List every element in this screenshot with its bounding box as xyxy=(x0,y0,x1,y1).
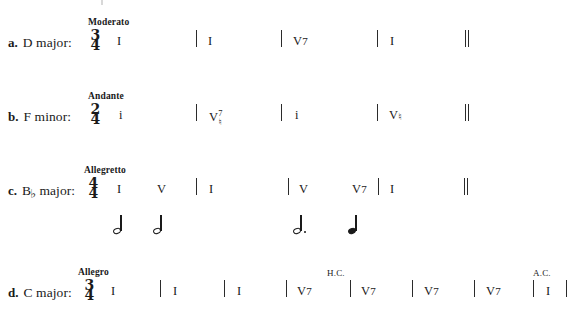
chord-numeral: V xyxy=(297,284,306,298)
chord-numeral: i xyxy=(295,108,299,122)
exercise-label-a: a.D major: xyxy=(8,36,72,50)
chord-numeral: I xyxy=(208,34,212,48)
cadence-label-hc: H.C. xyxy=(327,269,345,278)
chord-symbol[interactable]: V xyxy=(299,183,308,196)
time-signature-denominator: 4 xyxy=(82,290,96,300)
chord-symbol[interactable]: i xyxy=(119,109,123,122)
chord-symbol[interactable]: i xyxy=(295,109,299,122)
time-signature-a: 3 4 xyxy=(88,30,102,50)
chord-numeral: I xyxy=(237,284,241,298)
chord-numeral: V xyxy=(157,182,166,196)
half-note-icon xyxy=(113,215,129,237)
chord-symbol[interactable]: V7 xyxy=(293,35,308,48)
final-double-barline xyxy=(464,178,468,195)
barline xyxy=(566,280,567,297)
chord-seventh: 7 xyxy=(495,285,501,297)
barline xyxy=(196,30,197,47)
cadence-label-ac: A.C. xyxy=(533,269,551,278)
chord-numeral: V xyxy=(209,110,218,124)
time-signature-b: 2 4 xyxy=(88,104,102,124)
natural-sign-icon: ♮ xyxy=(218,117,222,127)
chord-numeral: V xyxy=(299,182,308,196)
final-double-barline xyxy=(465,30,469,47)
chord-symbol[interactable]: I xyxy=(390,183,394,196)
time-signature-denominator: 4 xyxy=(88,40,102,50)
chord-seventh: 7 xyxy=(370,285,376,297)
chord-numeral: I xyxy=(173,284,177,298)
time-signature-c: 4 4 xyxy=(86,178,100,198)
chord-numeral: I xyxy=(111,284,115,298)
quarter-note-icon xyxy=(348,215,364,237)
chord-numeral: V xyxy=(361,284,370,298)
chord-numeral: i xyxy=(119,108,123,122)
exercise-label-c: c.B♭ major: xyxy=(8,184,75,200)
chord-symbol[interactable]: I xyxy=(111,285,115,298)
barline xyxy=(160,280,161,297)
barline xyxy=(474,280,475,297)
chord-seventh: 7 xyxy=(361,183,367,195)
chord-symbol[interactable]: I xyxy=(209,183,213,196)
chord-symbol[interactable]: V7♮ xyxy=(209,109,222,127)
chord-numeral: I xyxy=(209,182,213,196)
time-signature-d: 3 4 xyxy=(82,280,96,300)
chord-seventh: 7 xyxy=(302,35,308,47)
key-name-c: B♭ major: xyxy=(22,183,75,198)
chord-numeral: I xyxy=(390,182,394,196)
key-name-d: C major: xyxy=(23,285,71,300)
barline xyxy=(286,280,287,297)
chord-symbol[interactable]: V7 xyxy=(424,285,439,298)
chord-numeral: I xyxy=(390,34,394,48)
final-double-barline xyxy=(465,104,469,121)
barline xyxy=(288,178,289,195)
item-letter-a: a. xyxy=(8,35,18,50)
chord-seventh: 7 xyxy=(306,285,312,297)
chord-symbol[interactable]: I xyxy=(237,285,241,298)
chord-numeral: V xyxy=(352,182,361,196)
chord-symbol[interactable]: V♮ xyxy=(389,109,402,122)
time-signature-denominator: 4 xyxy=(88,114,102,124)
barline xyxy=(412,280,413,297)
item-letter-d: d. xyxy=(8,285,18,300)
exercise-label-b: b.F minor: xyxy=(8,110,71,124)
chord-numeral: I xyxy=(117,34,121,48)
chord-symbol[interactable]: I xyxy=(390,35,394,48)
chord-symbol[interactable]: V7 xyxy=(486,285,501,298)
barline xyxy=(377,104,378,121)
chord-symbol[interactable]: I xyxy=(117,35,121,48)
natural-sign-icon: ♮ xyxy=(398,111,402,122)
chord-numeral: V xyxy=(486,284,495,298)
chord-numeral: V xyxy=(424,284,433,298)
barline xyxy=(377,30,378,47)
exercise-label-d: d.C major: xyxy=(8,286,72,300)
barline xyxy=(281,30,282,47)
barline xyxy=(281,104,282,121)
item-letter-c: c. xyxy=(8,183,17,198)
barline xyxy=(224,280,225,297)
chord-numeral: V xyxy=(293,34,302,48)
barline xyxy=(350,280,351,297)
chord-symbol[interactable]: V7 xyxy=(361,285,376,298)
barline xyxy=(196,104,197,121)
barline xyxy=(533,280,534,297)
half-note-icon xyxy=(153,215,169,237)
chord-seventh: 7 xyxy=(433,285,439,297)
scan-artifact xyxy=(101,0,103,5)
time-signature-denominator: 4 xyxy=(86,188,100,198)
chord-symbol[interactable]: I xyxy=(173,285,177,298)
chord-symbol[interactable]: V7 xyxy=(297,285,312,298)
key-mode: major: xyxy=(36,183,75,198)
chord-numeral: I xyxy=(546,284,550,298)
item-letter-b: b. xyxy=(8,109,18,124)
key-name-b: F minor: xyxy=(23,109,71,124)
chord-symbol[interactable]: V7 xyxy=(352,183,367,196)
chord-symbol[interactable]: V xyxy=(157,183,166,196)
chord-symbol[interactable]: I xyxy=(117,183,121,196)
chord-symbol[interactable]: I xyxy=(208,35,212,48)
dotted-half-note-icon xyxy=(293,215,309,237)
chord-numeral: V xyxy=(389,108,398,122)
chord-numeral: I xyxy=(117,182,121,196)
barline xyxy=(196,178,197,195)
barline xyxy=(378,178,379,195)
chord-symbol[interactable]: I xyxy=(546,285,550,298)
key-name-a: D major: xyxy=(23,35,72,50)
